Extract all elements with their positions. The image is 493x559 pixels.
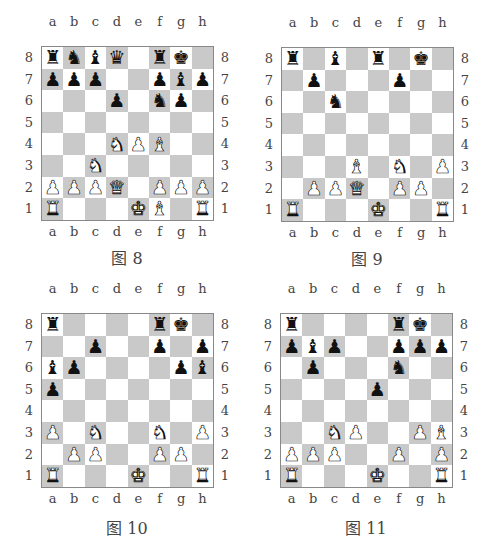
square-a8[interactable]: ♜ [281,314,302,336]
black-bishop-icon[interactable]: ♝ [87,48,104,67]
square-c3[interactable] [325,156,346,178]
square-d2[interactable] [106,444,127,466]
black-pawn-icon[interactable]: ♟ [66,358,83,377]
square-g5[interactable] [409,379,430,401]
square-a5[interactable]: ♟ [42,379,63,401]
white-pawn-icon[interactable]: ♟ [434,157,451,176]
square-e3[interactable] [128,155,149,177]
square-g4[interactable] [409,400,430,422]
white-knight-icon[interactable]: ♞ [87,423,104,442]
square-c2[interactable]: ♟ [85,177,106,199]
square-h8[interactable] [432,48,453,70]
square-f7[interactable]: ♟ [149,336,170,358]
square-g8[interactable]: ♚ [170,314,191,336]
black-pawn-icon[interactable]: ♟ [44,380,61,399]
white-pawn-icon[interactable]: ♟ [326,445,343,464]
black-rook-icon[interactable]: ♜ [370,49,387,68]
square-c7[interactable]: ♟ [85,69,106,91]
square-b8[interactable]: ♞ [63,47,84,69]
white-pawn-icon[interactable]: ♟ [194,423,211,442]
white-pawn-icon[interactable]: ♟ [173,445,190,464]
square-f6[interactable]: ♞ [149,90,170,112]
white-bishop-icon[interactable]: ♝ [151,135,168,154]
square-g8[interactable]: ♚ [409,314,430,336]
square-a6[interactable] [282,91,303,113]
square-f7[interactable]: ♟ [389,70,410,92]
square-h7[interactable]: ♟ [192,336,213,358]
square-h8[interactable] [192,47,213,69]
white-queen-icon[interactable]: ♛ [108,178,125,197]
square-d3[interactable]: ♟ [345,422,366,444]
square-a3[interactable]: ♟ [42,422,63,444]
black-rook-icon[interactable]: ♜ [284,49,301,68]
square-c4[interactable] [324,400,345,422]
white-pawn-icon[interactable]: ♟ [305,445,322,464]
square-d2[interactable]: ♛ [346,178,367,200]
square-f6[interactable] [389,91,410,113]
square-g6[interactable]: ♟ [170,357,191,379]
square-g5[interactable] [170,379,191,401]
white-pawn-icon[interactable]: ♟ [347,423,364,442]
square-a4[interactable] [282,134,303,156]
black-pawn-icon[interactable]: ♟ [306,71,323,90]
square-d8[interactable] [345,314,366,336]
white-rook-icon[interactable]: ♜ [194,199,211,218]
white-bishop-icon[interactable]: ♝ [433,423,450,442]
square-g6[interactable]: ♟ [170,90,191,112]
square-f1[interactable]: ♝ [149,198,170,220]
square-h4[interactable] [192,400,213,422]
square-b7[interactable] [63,336,84,358]
square-g3[interactable] [170,422,191,444]
square-h8[interactable] [431,314,452,336]
square-a8[interactable]: ♜ [282,48,303,70]
square-e5[interactable] [368,113,389,135]
square-e1[interactable]: ♚ [367,465,388,487]
square-f4[interactable] [388,400,409,422]
white-pawn-icon[interactable]: ♟ [390,445,407,464]
white-queen-icon[interactable]: ♛ [348,179,365,198]
square-a6[interactable]: ♝ [42,357,63,379]
square-f1[interactable] [149,465,170,487]
square-c4[interactable] [85,133,106,155]
square-e8[interactable] [128,314,149,336]
square-b1[interactable] [63,198,84,220]
square-b5[interactable] [302,379,323,401]
square-c6[interactable] [324,357,345,379]
square-e7[interactable] [368,70,389,92]
square-a4[interactable] [281,400,302,422]
square-d1[interactable] [346,199,367,221]
square-g7[interactable] [170,336,191,358]
square-b7[interactable]: ♟ [63,69,84,91]
square-b6[interactable]: ♟ [63,357,84,379]
square-b7[interactable]: ♝ [302,336,323,358]
square-h8[interactable] [192,314,213,336]
black-pawn-icon[interactable]: ♟ [108,91,125,110]
square-b8[interactable] [303,48,324,70]
black-pawn-icon[interactable]: ♟ [151,70,168,89]
square-d3[interactable] [106,422,127,444]
black-queen-icon[interactable]: ♛ [108,48,125,67]
white-knight-icon[interactable]: ♞ [326,423,343,442]
square-f4[interactable]: ♝ [149,133,170,155]
square-c5[interactable] [324,379,345,401]
white-pawn-icon[interactable]: ♟ [151,445,168,464]
square-h4[interactable] [432,134,453,156]
square-g8[interactable]: ♚ [410,48,431,70]
white-knight-icon[interactable]: ♞ [391,157,408,176]
square-f2[interactable]: ♟ [149,177,170,199]
square-c4[interactable] [85,400,106,422]
square-b4[interactable] [302,400,323,422]
white-king-icon[interactable]: ♚ [130,199,147,218]
square-a2[interactable]: ♟ [281,444,302,466]
square-g1[interactable] [170,465,191,487]
square-e1[interactable]: ♚ [368,199,389,221]
square-d5[interactable] [106,112,127,134]
square-a2[interactable] [42,444,63,466]
square-d6[interactable] [106,357,127,379]
white-pawn-icon[interactable]: ♟ [66,445,83,464]
square-e5[interactable] [128,379,149,401]
square-f5[interactable] [388,379,409,401]
square-b3[interactable] [302,422,323,444]
square-f1[interactable] [389,199,410,221]
square-g5[interactable] [170,112,191,134]
